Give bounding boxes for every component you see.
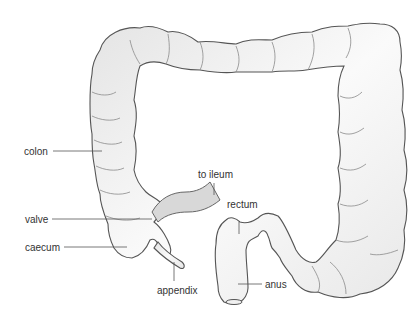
- label-rectum: rectum: [227, 199, 258, 210]
- label-colon: colon: [24, 146, 48, 157]
- label-appendix: appendix: [157, 285, 198, 296]
- label-to-ileum: to ileum: [198, 169, 233, 180]
- anus-opening: [226, 300, 242, 305]
- large-intestine-diagram: colon to ileum valve rectum caecum appen…: [0, 0, 413, 318]
- label-anus: anus: [265, 279, 287, 290]
- ileum-tube: [152, 182, 220, 222]
- label-valve: valve: [25, 214, 49, 225]
- colon-shape: [90, 23, 407, 303]
- label-caecum: caecum: [25, 242, 60, 253]
